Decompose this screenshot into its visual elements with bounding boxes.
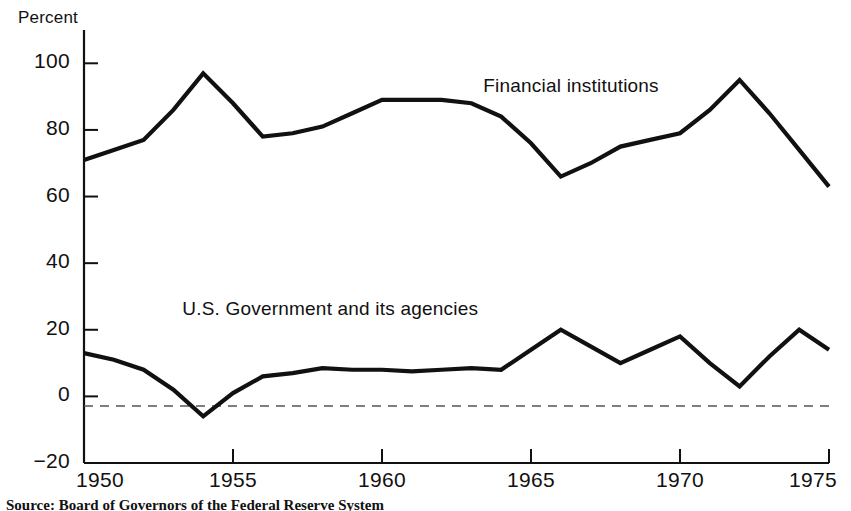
y-tick-label: 100 [8,49,70,73]
y-tick-label: 20 [8,316,70,340]
series-line-us-government [84,330,829,417]
y-tick-label: 0 [8,382,70,406]
x-tick-label: 1950 [76,468,134,492]
series-label-us-government: U.S. Government and its agencies [182,298,478,320]
chart-figure: Percent −20020406080100 1950195519601965… [0,0,851,511]
y-tick-label: 80 [8,116,70,140]
x-tick-label: 1960 [353,468,411,492]
x-tick-label: 1970 [651,468,709,492]
x-tick-label: 1955 [204,468,262,492]
x-axis-ticks [233,449,829,463]
y-axis-title: Percent [18,8,78,28]
y-tick-label: 60 [8,183,70,207]
y-axis-ticks [84,63,98,463]
x-tick-label: 1975 [779,468,837,492]
series-line-financial-institutions [84,73,829,186]
source-note: Source: Board of Governors of the Federa… [6,497,384,511]
chart-plot-area [0,0,851,511]
y-tick-label: −20 [8,449,70,473]
y-tick-label: 40 [8,249,70,273]
x-tick-label: 1965 [502,468,560,492]
series-label-financial-institutions: Financial institutions [483,75,658,97]
